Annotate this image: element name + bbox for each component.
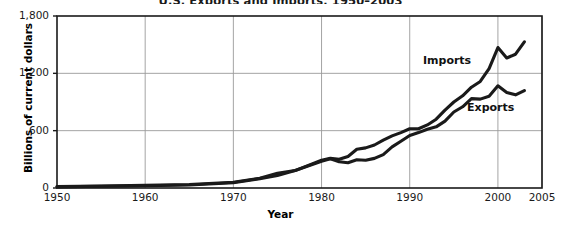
chart-container: U.S. Exports and Imports, 1950–2003 Bill… xyxy=(0,0,561,227)
series-label-exports: Exports xyxy=(467,101,514,114)
x-axis-title: Year xyxy=(0,208,561,220)
series-label-imports: Imports xyxy=(423,54,471,67)
